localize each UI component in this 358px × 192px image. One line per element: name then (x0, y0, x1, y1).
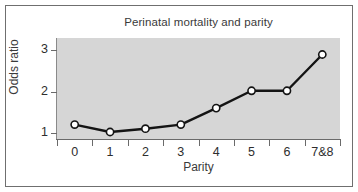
data-point-marker (142, 125, 149, 132)
odds-ratio-markers (71, 51, 326, 136)
data-point-marker (283, 87, 290, 94)
data-point-marker (213, 104, 220, 111)
data-point-marker (319, 51, 326, 58)
data-point-marker (71, 121, 78, 128)
data-point-marker (177, 121, 184, 128)
data-point-marker (106, 128, 113, 135)
chart-figure: Perinatal mortality and parity Odds rati… (0, 0, 358, 192)
data-point-marker (248, 87, 255, 94)
series-layer (0, 0, 358, 192)
